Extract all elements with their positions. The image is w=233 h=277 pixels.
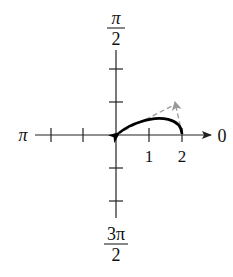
polar-curve xyxy=(119,118,182,134)
label-pi-over-2-num: π xyxy=(111,8,121,28)
polar-diagram: π 2 π 0 1 2 3π 2 xyxy=(0,0,233,277)
label-pi-over-2-den: 2 xyxy=(112,29,121,49)
label-3pi-over-2-den: 2 xyxy=(112,245,121,265)
label-zero: 0 xyxy=(218,126,227,146)
label-3pi-over-2-num: 3π xyxy=(107,224,125,244)
label-pi: π xyxy=(18,125,28,145)
tick-label-1: 1 xyxy=(145,147,154,166)
tick-label-2: 2 xyxy=(178,147,187,166)
